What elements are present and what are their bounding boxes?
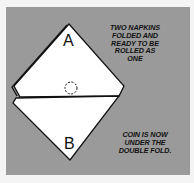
caption-top: TWO NAPKINS FOLDED AND READY TO BE ROLLE…: [94, 24, 176, 63]
napkin-a-label: A: [63, 32, 74, 50]
napkin-b-label: B: [64, 135, 75, 153]
caption-bottom: COIN IS NOW UNDER THE DOUBLE FOLD.: [106, 131, 184, 154]
